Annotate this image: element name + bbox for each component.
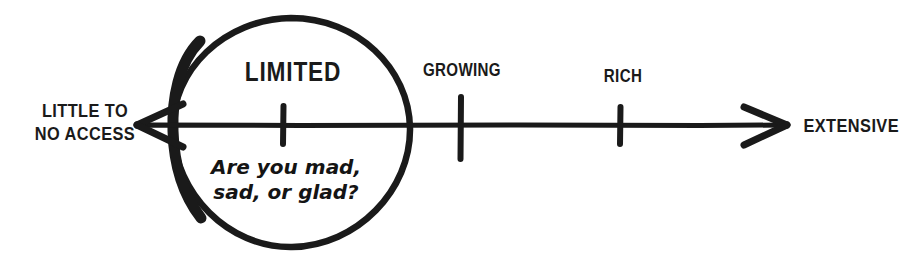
spectrum-diagram: LITTLE TO NO ACCESS EXTENSIVE LIMITED GR… (0, 0, 909, 261)
tick-label-limited: LIMITED (226, 57, 360, 88)
tick-growing (461, 97, 462, 159)
highlight-circle (173, 18, 410, 247)
axis-label-left: LITTLE TO NO ACCESS (21, 99, 150, 145)
tick-label-growing: GROWING (415, 60, 509, 81)
tick-label-rich: RICH (589, 66, 656, 87)
tick-rich (620, 107, 621, 144)
tick-limited (283, 106, 284, 144)
handwritten-annotation: Are you mad, sad, or glad? (186, 155, 386, 205)
axis-label-right: EXTENSIVE (803, 114, 894, 137)
